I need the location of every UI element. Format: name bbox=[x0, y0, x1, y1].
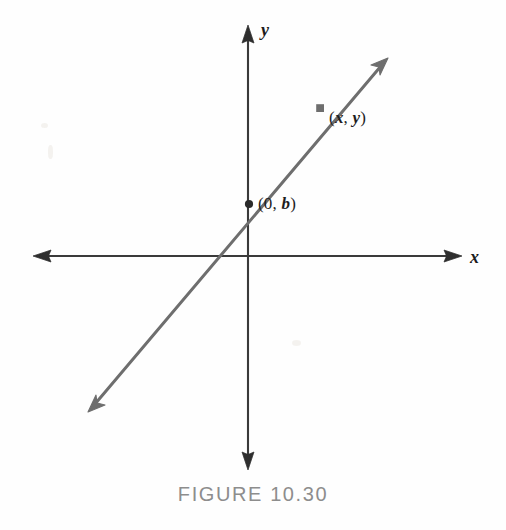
point-label-xy: (x, y) bbox=[329, 108, 366, 128]
point-label-y-intercept-close: ) bbox=[290, 194, 296, 213]
x-axis-label: x bbox=[470, 247, 479, 268]
point-label-xy-variable-x: x bbox=[335, 108, 344, 127]
figure-container: y x (0, b) (x, y) FIGURE 10.30 bbox=[0, 0, 506, 530]
y-axis-label: y bbox=[261, 20, 269, 41]
line-lower-arrowhead-icon bbox=[88, 395, 105, 412]
point-marker-y-intercept bbox=[245, 200, 253, 208]
y-axis bbox=[242, 25, 254, 470]
point-label-y-intercept-variable: b bbox=[281, 194, 290, 213]
point-marker-xy bbox=[316, 104, 324, 112]
point-label-xy-close: ) bbox=[360, 108, 366, 127]
coordinate-graph bbox=[0, 0, 506, 530]
y-axis-bottom-arrowhead-icon bbox=[242, 452, 254, 470]
y-axis-top-arrowhead-icon bbox=[242, 25, 254, 43]
x-axis-left-arrowhead-icon bbox=[33, 250, 51, 262]
x-axis-right-arrowhead-icon bbox=[444, 250, 462, 262]
line-upper-arrowhead-icon bbox=[371, 58, 388, 75]
point-label-y-intercept-open: (0, bbox=[258, 194, 281, 213]
figure-caption: FIGURE 10.30 bbox=[0, 483, 506, 506]
point-label-y-intercept: (0, b) bbox=[258, 194, 296, 214]
